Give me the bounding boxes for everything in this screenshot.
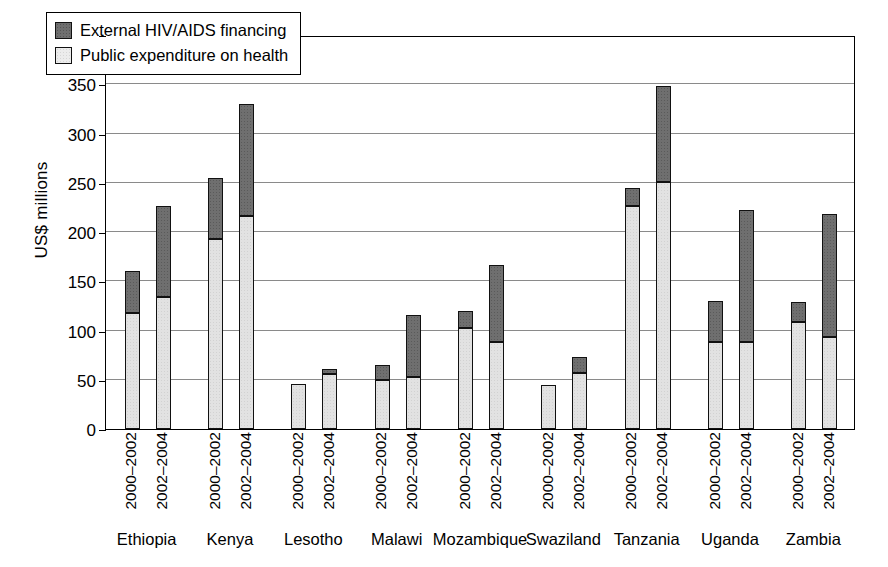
period-label: 2000–2002 <box>457 432 472 522</box>
period-label: 2000–2002 <box>707 432 722 522</box>
x-axis-country-labels: EthiopiaKenyaLesothoMalawiMozambiqueSwaz… <box>105 530 855 560</box>
period-label-text: 2000–2002 <box>289 432 307 510</box>
country-label-kenya: Kenya <box>207 530 254 549</box>
period-label-text: 2002–2004 <box>403 432 421 510</box>
country-label-uganda: Uganda <box>701 530 759 549</box>
bar-segment-public <box>656 182 671 429</box>
bar-segment-public <box>708 342 723 429</box>
period-label-text: 2000–2002 <box>456 432 474 510</box>
bar-segment-external <box>406 315 421 377</box>
legend-swatch-public <box>55 47 72 64</box>
x-axis-period-labels: 2000–20022002–20042000–20022002–20042000… <box>105 432 855 524</box>
y-tick-label: 150 <box>50 274 96 291</box>
period-label-text: 2002–2004 <box>820 432 838 510</box>
period-label-text: 2000–2002 <box>539 432 557 510</box>
bar-zambia-p1 <box>791 302 806 429</box>
bar-segment-external <box>375 365 390 380</box>
bar-segment-public <box>739 342 754 429</box>
bar-segment-public <box>791 322 806 429</box>
bar-segment-public <box>625 206 640 429</box>
y-tick-label: 50 <box>50 372 96 389</box>
period-label-text: 2002–2004 <box>570 432 588 510</box>
bar-lesotho-p2 <box>322 369 337 429</box>
period-label: 2002–2004 <box>321 432 336 522</box>
legend-item-public: Public expenditure on health <box>55 43 288 68</box>
y-tick-mark <box>99 332 106 333</box>
bar-segment-public <box>406 377 421 429</box>
bar-malawi-p1 <box>375 365 390 429</box>
bar-segment-public <box>208 239 223 429</box>
period-label-text: 2000–2002 <box>706 432 724 510</box>
period-label: 2000–2002 <box>624 432 639 522</box>
period-label-text: 2002–2004 <box>653 432 671 510</box>
country-label-ethiopia: Ethiopia <box>117 530 177 549</box>
bar-series-group <box>106 37 854 429</box>
period-label-text: 2002–2004 <box>487 432 505 510</box>
y-tick-mark <box>99 233 106 234</box>
period-label: 2002–2004 <box>821 432 836 522</box>
bar-zambia-p2 <box>822 214 837 429</box>
bar-uganda-p1 <box>708 301 723 429</box>
y-axis-title: US$ millions <box>32 130 52 290</box>
bar-segment-external <box>239 104 254 216</box>
bar-tanzania-p1 <box>625 188 640 429</box>
bar-mozambique-p1 <box>458 311 473 429</box>
bar-segment-external <box>822 214 837 337</box>
legend-label-external: External HIV/AIDS financing <box>80 21 286 40</box>
country-label-malawi: Malawi <box>371 530 422 549</box>
bar-segment-external <box>322 369 337 374</box>
y-tick-mark <box>99 282 106 283</box>
bar-segment-public <box>125 313 140 429</box>
period-label: 2000–2002 <box>540 432 555 522</box>
period-label-text: 2002–2004 <box>153 432 171 510</box>
y-tick-label: 0 <box>50 422 96 439</box>
country-label-tanzania: Tanzania <box>614 530 680 549</box>
period-label-text: 2002–2004 <box>737 432 755 510</box>
legend-label-public: Public expenditure on health <box>80 46 288 65</box>
period-label: 2000–2002 <box>290 432 305 522</box>
period-label-text: 2002–2004 <box>237 432 255 510</box>
period-label: 2002–2004 <box>405 432 420 522</box>
bar-swaziland-p1 <box>541 385 556 429</box>
y-tick-label: 100 <box>50 323 96 340</box>
chart-legend: External HIV/AIDS financing Public expen… <box>46 12 301 75</box>
y-tick-mark <box>99 430 106 431</box>
period-label: 2002–2004 <box>488 432 503 522</box>
period-label-text: 2002–2004 <box>320 432 338 510</box>
period-label: 2002–2004 <box>571 432 586 522</box>
period-label-text: 2000–2002 <box>122 432 140 510</box>
y-tick-mark <box>99 135 106 136</box>
country-label-zambia: Zambia <box>786 530 841 549</box>
bar-swaziland-p2 <box>572 357 587 429</box>
y-tick-mark <box>99 381 106 382</box>
bar-malawi-p2 <box>406 315 421 429</box>
bar-segment-external <box>791 302 806 322</box>
y-axis-tick-labels: 400350300250200150100500 <box>50 0 96 567</box>
bar-segment-public <box>291 384 306 429</box>
bar-segment-external <box>625 188 640 207</box>
bar-segment-external <box>489 265 504 343</box>
bar-segment-external <box>572 357 587 373</box>
bar-kenya-p2 <box>239 104 254 429</box>
y-tick-mark <box>99 36 106 37</box>
country-label-mozambique: Mozambique <box>433 530 527 549</box>
period-label: 2002–2004 <box>155 432 170 522</box>
y-tick-label: 250 <box>50 175 96 192</box>
bar-lesotho-p1 <box>291 384 306 429</box>
bar-segment-public <box>822 337 837 429</box>
bar-segment-external <box>708 301 723 342</box>
bar-segment-public <box>322 374 337 429</box>
legend-item-external: External HIV/AIDS financing <box>55 18 288 43</box>
bar-segment-public <box>156 297 171 429</box>
y-tick-label: 200 <box>50 225 96 242</box>
period-label-text: 2000–2002 <box>206 432 224 510</box>
chart-figure: US$ millions 400350300250200150100500 Ex… <box>0 0 888 567</box>
plot-area <box>105 36 855 430</box>
period-label: 2002–2004 <box>738 432 753 522</box>
bar-tanzania-p2 <box>656 86 671 429</box>
period-label-text: 2000–2002 <box>372 432 390 510</box>
bar-segment-public <box>458 328 473 429</box>
y-tick-mark <box>99 184 106 185</box>
bar-uganda-p2 <box>739 210 754 429</box>
bar-kenya-p1 <box>208 178 223 429</box>
